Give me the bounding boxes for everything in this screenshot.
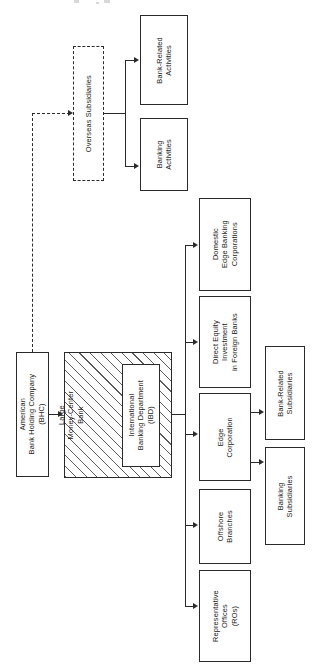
connector-activities-bus bbox=[125, 60, 126, 167]
node-direct-equity-investment-in-foreign-banks-label: Direct Equity Investment in Foreign Bank… bbox=[211, 313, 239, 371]
node-banking-subsidiaries-label: Banking Subsidiaries bbox=[276, 475, 295, 517]
node-bank-related-activities-label: Bank-Related Activities bbox=[155, 37, 174, 84]
connector-ibd-bus bbox=[185, 245, 186, 606]
node-international-banking-department: International Banking Department (IBD) bbox=[122, 364, 160, 467]
node-domestic-edge-banking-corporations-label: Domestic Edge Banking Corporations bbox=[211, 221, 239, 269]
node-international-banking-department-label: International Banking Department (IBD) bbox=[127, 380, 155, 450]
node-edge-corporation-label: Edge Corporation bbox=[216, 417, 235, 457]
node-banking-activities-label: Banking Activities bbox=[155, 139, 174, 170]
node-edge-corporation: Edge Corporation bbox=[199, 393, 251, 481]
node-banking-subsidiaries: Banking Subsidiaries bbox=[265, 447, 305, 545]
arrowhead-offshore-branches bbox=[193, 522, 198, 528]
node-american-bank-holding-company-label: American Bank Holding Company (BHC) bbox=[18, 374, 46, 455]
scan-artifact bbox=[104, 0, 110, 3]
node-representative-offices-label: Representative Offices (ROs) bbox=[211, 590, 239, 642]
node-domestic-edge-banking-corporations: Domestic Edge Banking Corporations bbox=[199, 198, 251, 291]
arrowhead-bank-related-activities bbox=[134, 57, 139, 63]
arrowhead-representative-offices bbox=[193, 603, 198, 609]
arrowhead-direct-equity-investment bbox=[193, 339, 198, 345]
connector-overseas-stub bbox=[104, 113, 126, 114]
arrowhead-banking-subsidiaries bbox=[259, 459, 264, 465]
node-direct-equity-investment-in-foreign-banks: Direct Equity Investment in Foreign Bank… bbox=[199, 296, 251, 388]
connector-bhc-to-overseas-vertical bbox=[32, 113, 33, 352]
node-bank-related-activities: Bank-Related Activities bbox=[140, 15, 188, 105]
node-overseas-subsidiaries: Overseas Subsidiaries bbox=[73, 46, 104, 181]
node-bank-related-subsidiaries-label: Bank-Related Subsidiaries bbox=[276, 370, 295, 417]
arrowhead-bank-related-subsidiaries bbox=[259, 409, 264, 415]
connector-bhc-to-overseas-horizontal bbox=[32, 113, 70, 114]
node-overseas-subsidiaries-label: Overseas Subsidiaries bbox=[84, 75, 93, 152]
node-american-bank-holding-company: American Bank Holding Company (BHC) bbox=[16, 352, 49, 477]
node-large-money-center-bank-label: Large Money-Center Bank bbox=[57, 391, 85, 440]
connector-ibd-outlet bbox=[172, 414, 185, 415]
node-bank-related-subsidiaries: Bank-Related Subsidiaries bbox=[265, 346, 305, 440]
arrowhead-edge-corporation bbox=[193, 431, 198, 437]
node-representative-offices: Representative Offices (ROs) bbox=[199, 570, 251, 662]
scan-artifact bbox=[96, 2, 99, 4]
node-offshore-branches: Offshore Branches bbox=[199, 489, 251, 564]
node-banking-activities: Banking Activities bbox=[140, 118, 188, 191]
node-offshore-branches-label: Offshore Branches bbox=[216, 510, 235, 542]
scan-artifact bbox=[74, 0, 79, 3]
bank-holding-company-diagram: Overseas Subsidiaries Bank-Related Activ… bbox=[0, 0, 312, 664]
arrowhead-domestic-edge-banking-corporations bbox=[193, 242, 198, 248]
arrowhead-banking-activities bbox=[134, 163, 139, 169]
